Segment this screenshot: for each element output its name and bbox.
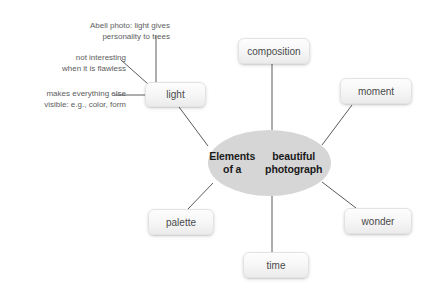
center-node-line-0: Elements of a [208,150,256,177]
annotation-not-interesting: not interesting when it is flawless [22,52,126,75]
center-node-elements-of-a-beautiful-photograph[interactable]: Elements of abeautiful photograph [208,130,331,196]
node-light[interactable]: light [145,82,206,107]
node-label-moment: moment [358,86,394,97]
edge-center-wonder [322,182,356,208]
annotation-makes-visible: makes everything else visible: e.g., col… [12,88,126,111]
center-node-line-1: beautiful photograph [256,150,331,177]
node-moment[interactable]: moment [340,78,412,104]
node-label-wonder: wonder [362,216,395,227]
edge-center-moment [322,105,352,145]
mindmap-diagram: Elements of abeautiful photograph lightc… [0,0,429,295]
edge-center-light [179,107,208,146]
edge-center-palette [188,183,213,209]
node-label-time: time [267,260,286,271]
node-wonder[interactable]: wonder [344,208,412,234]
node-time[interactable]: time [243,252,309,278]
node-label-composition: composition [247,46,300,57]
node-label-palette: palette [166,217,196,228]
node-palette[interactable]: palette [148,209,214,235]
annotation-abell: Abell photo: light gives personality to … [58,20,170,43]
node-label-light: light [166,89,184,100]
node-composition[interactable]: composition [238,38,310,64]
